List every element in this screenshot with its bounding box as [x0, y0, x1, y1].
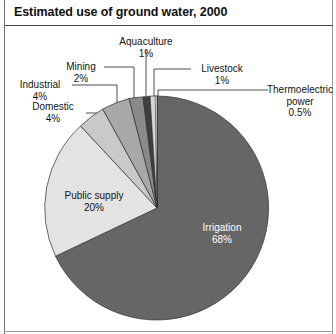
- slice-label-irrigation-value: 68%: [186, 234, 258, 246]
- slice-label-industrial-value: 4%: [9, 91, 71, 103]
- slice-label-mining: Mining 2%: [58, 61, 104, 84]
- slice-label-irrigation-name: Irrigation: [186, 222, 258, 234]
- leader-line-livestock: [154, 69, 191, 96]
- slice-label-thermoelectric-power: Thermoelectric power 0.5%: [265, 84, 335, 119]
- slice-label-irrigation: Irrigation 68%: [186, 222, 258, 245]
- slice-label-aquaculture: Aquaculture 1%: [108, 36, 184, 59]
- slice-label-aquaculture-name: Aquaculture: [108, 36, 184, 48]
- slice-label-thermoelectric-power-value: 0.5%: [265, 107, 335, 119]
- slice-label-public-supply-value: 20%: [51, 202, 137, 214]
- slice-label-mining-value: 2%: [58, 73, 104, 85]
- slice-label-public-supply: Public supply 20%: [51, 190, 137, 213]
- slice-label-livestock: Livestock 1%: [192, 63, 252, 86]
- slice-label-thermoelectric-power-name-line2: power: [265, 96, 335, 108]
- slice-label-livestock-name: Livestock: [192, 63, 252, 75]
- slice-label-mining-name: Mining: [58, 61, 104, 73]
- slice-label-aquaculture-value: 1%: [108, 48, 184, 60]
- chart-page: Estimated use of ground water, 2000: [0, 0, 336, 334]
- slice-label-public-supply-name: Public supply: [51, 190, 137, 202]
- slice-label-domestic: Domestic 4%: [22, 101, 84, 124]
- slice-label-thermoelectric-power-name-line1: Thermoelectric: [265, 84, 335, 96]
- leader-line-thermoelectric: [158, 90, 268, 97]
- slice-label-domestic-value: 4%: [22, 113, 84, 125]
- slice-label-livestock-value: 1%: [192, 75, 252, 87]
- leader-line-mining: [104, 67, 134, 99]
- slice-label-domestic-name: Domestic: [22, 101, 84, 113]
